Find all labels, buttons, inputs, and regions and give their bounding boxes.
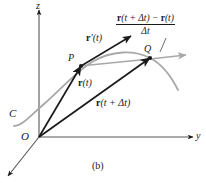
numerator-args-1: (t + Δt) − [121,13,161,23]
tangent-vector-label-args: ′(t) [90,32,102,43]
tangent-vector-label: r′(t) [86,33,102,43]
vector-calculus-figure: z y O C P Q r′(t) r(t) r(t + Δt) r(t + Δ… [0,0,206,183]
position-vector-rt-plus-dt-label-args: (t + Δt) [100,97,130,108]
curve-label-c: C [9,108,16,119]
y-axis-label: y [196,131,200,141]
point-label-p: P [68,53,74,63]
position-vector-rt [39,66,81,137]
difference-quotient-numerator: r(t + Δt) − r(t) [116,13,175,25]
point-q-dot [148,56,152,60]
figure-caption: (b) [92,161,104,171]
figure-canvas [0,0,206,183]
point-label-q: Q [144,44,151,54]
point-p-dot [79,64,83,68]
position-vector-rt-plus-dt [39,58,150,137]
difference-quotient-formula: r(t + Δt) − r(t) Δt [116,13,175,36]
difference-quotient-vector [150,55,186,59]
position-vector-rt-label: r(t) [78,78,92,88]
origin-label: O [21,131,29,142]
position-vector-rt-plus-dt-label: r(t + Δt) [96,98,130,108]
difference-quotient-denominator: Δt [116,25,175,36]
fraction-leader-line [160,38,166,52]
position-vector-rt-label-args: (t) [82,77,91,88]
z-axis-label: z [36,1,40,11]
numerator-args-2: (t) [165,13,174,23]
x-axis [8,137,39,176]
